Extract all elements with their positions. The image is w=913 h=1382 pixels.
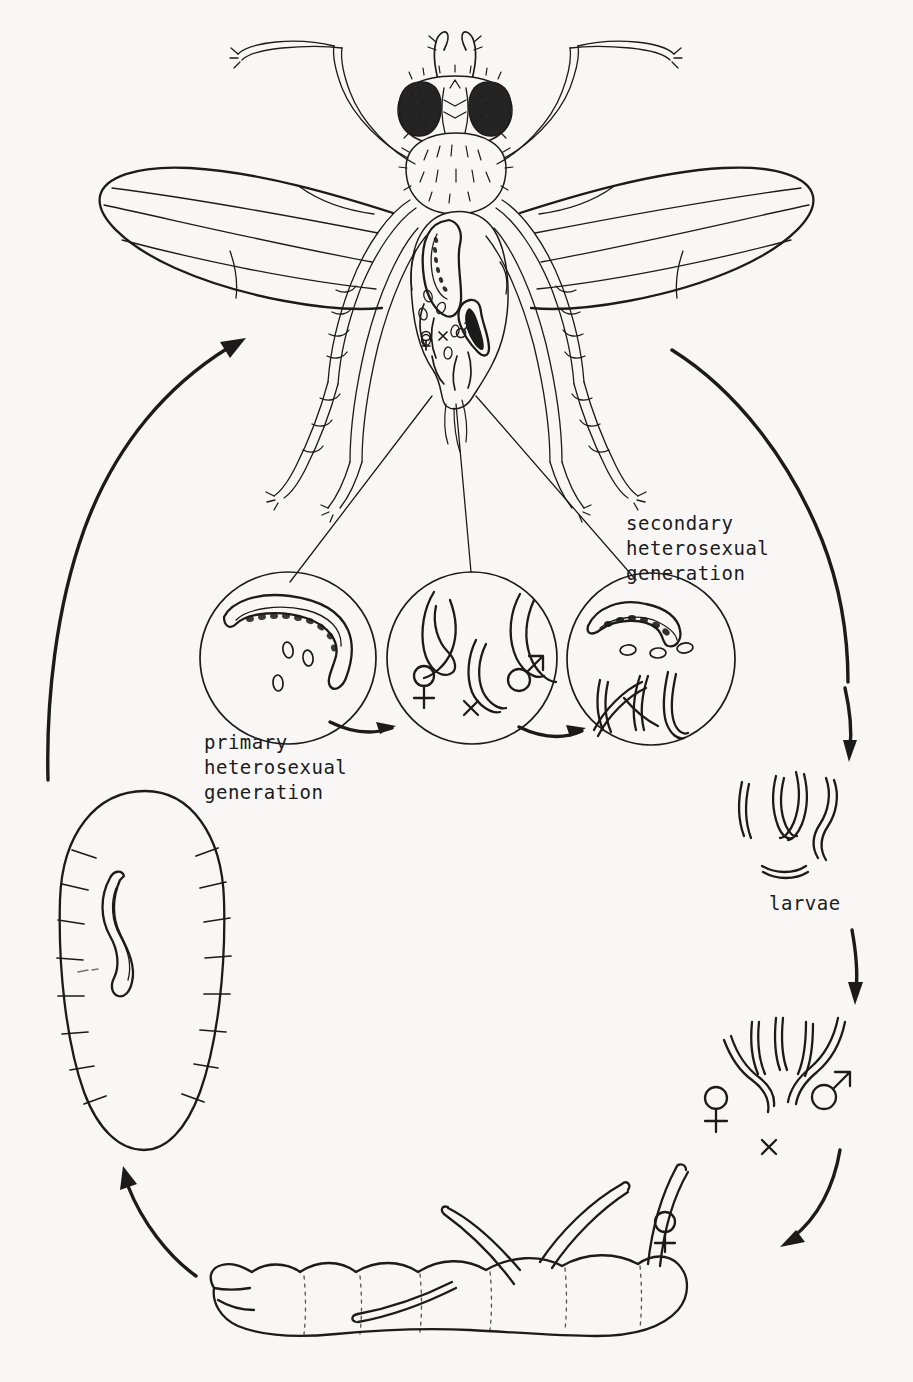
larvae-label: larvae (769, 891, 841, 916)
arrow-adults-to-maggot (780, 1150, 840, 1247)
female-symbol-maggot (655, 1212, 675, 1252)
female-symbol-mating-circle (414, 666, 434, 708)
male-symbol-adults (812, 1072, 850, 1109)
free-living-larvae-cluster (739, 772, 837, 878)
secondary-eggs (620, 642, 694, 658)
fly-pupa-with-nematode (57, 791, 231, 1150)
male-symbol-mating-circle (508, 656, 543, 691)
arrow-larvae-to-adults (848, 930, 863, 1005)
secondary-juvenile-larvae (594, 672, 688, 738)
arrow-secondary-to-larvae (843, 688, 857, 762)
fly-maggot (211, 1164, 688, 1336)
mating-generation-circle (387, 572, 557, 744)
mating-cross-symbol (464, 701, 478, 715)
adult-fly-illustration (100, 32, 814, 522)
life-cycle-diagram: primary heterosexual generation secondar… (0, 0, 913, 1382)
released-eggs (272, 641, 314, 691)
primary-generation-label: primary heterosexual generation (204, 730, 347, 805)
infective-nematodes-penetrating (352, 1164, 688, 1322)
arrow-mating-to-secondary (519, 725, 586, 737)
female-symbol-adults (705, 1087, 727, 1132)
arrow-pupa-to-fly (48, 338, 246, 780)
fly-thorax (399, 133, 513, 214)
adults-cross-symbol (762, 1140, 776, 1154)
right-wing (520, 168, 813, 309)
arrow-maggot-to-pupa (120, 1166, 196, 1276)
secondary-generation-label: secondary heterosexual generation (626, 511, 769, 586)
secondary-heterosexual-generation-circle (567, 573, 735, 745)
primary-heterosexual-generation-circle (200, 572, 376, 744)
diagram-canvas (0, 0, 913, 1382)
maturing-adults-cluster (705, 1018, 850, 1154)
